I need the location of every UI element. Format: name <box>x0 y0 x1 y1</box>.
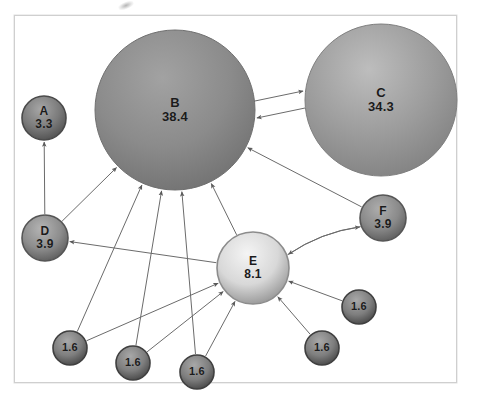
node-circle-E[interactable] <box>217 232 289 304</box>
node-circle-C[interactable] <box>305 24 457 176</box>
edge-B-to-C <box>255 91 303 101</box>
graph-svg <box>0 0 477 405</box>
edge-F-to-E <box>288 227 360 255</box>
node-circle-1-6[interactable] <box>116 346 150 380</box>
edge-S2-to-E <box>147 292 223 352</box>
edge-S2-to-B <box>136 191 162 345</box>
edge-S5-to-E <box>278 297 310 335</box>
node-circle-B[interactable] <box>95 30 255 190</box>
node-circle-1-6[interactable] <box>180 355 214 389</box>
edge-C-to-B <box>257 108 305 118</box>
edge-D-to-A <box>44 142 45 214</box>
edge-D-to-B <box>62 168 116 222</box>
edge-S4-to-E <box>289 281 342 301</box>
node-circle-D[interactable] <box>22 215 68 261</box>
diagram-canvas: A3.3B38.4C34.3D3.9E8.1F3.91.61.61.61.61.… <box>0 0 477 405</box>
edge-S3-to-B <box>182 192 196 354</box>
edge-E-to-B <box>211 184 236 235</box>
edge-S1-to-E <box>86 283 218 341</box>
node-circle-1-6[interactable] <box>342 290 376 324</box>
edge-S3-to-E <box>206 301 235 356</box>
node-circle-1-6[interactable] <box>305 331 339 365</box>
node-circle-F[interactable] <box>360 195 406 241</box>
edge-S1-to-B <box>77 185 142 332</box>
node-layer <box>22 24 457 389</box>
node-circle-A[interactable] <box>22 96 66 140</box>
node-circle-1-6[interactable] <box>53 331 87 365</box>
edge-E-to-F <box>288 227 360 255</box>
edge-E-to-D <box>70 242 217 263</box>
